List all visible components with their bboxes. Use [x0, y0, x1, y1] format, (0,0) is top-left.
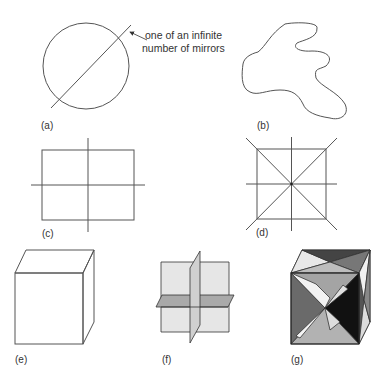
cube-front-face — [15, 273, 83, 344]
mirror-line — [51, 25, 131, 108]
circle-shape — [43, 23, 129, 109]
panel-label: (a) — [41, 120, 53, 131]
center-point — [290, 183, 293, 186]
panel-label: (d) — [256, 227, 268, 238]
panel-b: (b) — [242, 23, 346, 131]
panel-label: (b) — [257, 120, 269, 131]
panel-label: (e) — [15, 354, 27, 365]
panel-e: (e) — [15, 250, 94, 365]
panel-f: (f) — [156, 251, 234, 365]
annotation-line1: one of an infinite — [145, 29, 222, 41]
blob-shape — [242, 23, 346, 119]
panel-d: (d) — [246, 137, 337, 238]
panel-label: (g) — [291, 354, 303, 365]
annotation-line2: number of mirrors — [142, 42, 225, 54]
panel-g: (g) — [291, 250, 370, 365]
cube-top-face — [15, 250, 94, 273]
panel-label: (c) — [42, 228, 54, 239]
panel-label: (f) — [162, 354, 171, 365]
panel-a: one of an infinite number of mirrors (a) — [41, 23, 225, 131]
panel-c: (c) — [31, 138, 145, 239]
symmetry-diagram: one of an infinite number of mirrors (a)… — [0, 0, 387, 378]
cube-right-face — [83, 250, 94, 344]
